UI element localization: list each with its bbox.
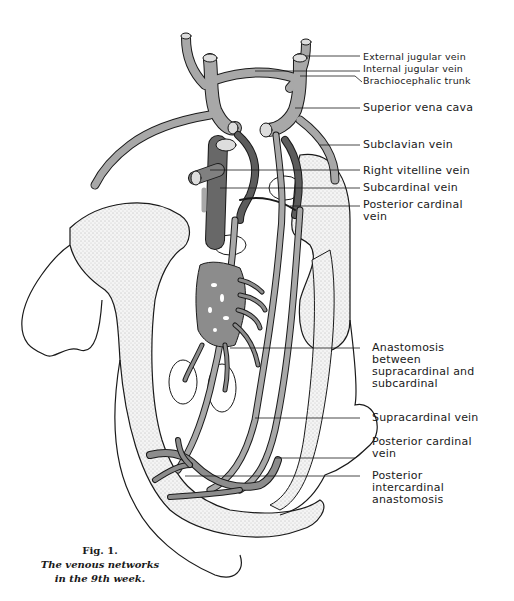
figure-number: Fig. 1. xyxy=(30,544,170,558)
label-internal-jugular-vein: Internal jugular vein xyxy=(363,63,463,75)
label-superior-vena-cava: Superior vena cava xyxy=(363,102,473,114)
venous-network-diagram xyxy=(0,0,514,601)
label-posterior-intercardinal-anastomosis: Posterior intercardinal anastomosis xyxy=(372,470,444,506)
label-line: vein xyxy=(372,448,472,460)
label-brachiocephalic-trunk: Brachiocephalic trunk xyxy=(363,75,471,87)
label-line: vein xyxy=(363,211,463,223)
label-line: anastomosis xyxy=(372,494,444,506)
caption-line-2: in the 9th week. xyxy=(30,572,170,586)
label-line: subcardinal xyxy=(372,378,474,390)
caption-line-1: The venous networks xyxy=(30,558,170,572)
subcardinal-network xyxy=(185,262,265,390)
label-supracardinal-vein: Supracardinal vein xyxy=(372,412,479,424)
label-external-jugular-vein: External jugular vein xyxy=(363,51,466,63)
label-subcardinal-vein: Subcardinal vein xyxy=(363,182,458,194)
label-posterior-cardinal-vein-upper: Posterior cardinal vein xyxy=(363,199,463,223)
label-anastomosis-supra-sub: Anastomosis between supracardinal and su… xyxy=(372,342,474,390)
embryo-outline xyxy=(22,154,377,577)
label-right-vitelline-vein: Right vitelline vein xyxy=(363,165,470,177)
label-posterior-cardinal-vein-lower: Posterior cardinal vein xyxy=(372,436,472,460)
label-subclavian-vein: Subclavian vein xyxy=(363,139,453,151)
figure-caption: Fig. 1. The venous networks in the 9th w… xyxy=(30,544,170,586)
